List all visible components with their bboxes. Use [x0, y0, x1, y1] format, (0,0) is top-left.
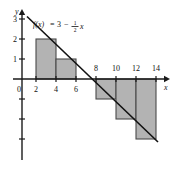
x-axis-arrowhead	[164, 76, 170, 82]
equation-minus: −	[64, 20, 69, 29]
x-tick-label-14: 14	[152, 64, 160, 73]
equation-fx: f(x)	[33, 20, 44, 29]
equation-three: 3	[57, 20, 61, 29]
function-equation-annotation: f(x) = 3 − 1 2 x	[33, 20, 84, 33]
y-tick-label-3: 3	[13, 15, 17, 24]
y-axis-arrowhead	[19, 9, 25, 15]
bar-10-12	[116, 79, 136, 119]
x-tick-label-12: 12	[132, 64, 140, 73]
x-tick-label-10: 10	[112, 64, 120, 73]
bar-4-6	[56, 59, 76, 79]
equation-fraction-denominator: 2	[74, 27, 77, 33]
equation-equals: =	[50, 20, 55, 29]
y-tick-label-2: 2	[13, 35, 17, 44]
x-tick-label-0: 0	[17, 85, 21, 94]
bar-group-negative	[96, 79, 156, 139]
chart-canvas: 0 2 4 6 8 10 12 14 3 2 1 y x f(x) = 3 − …	[0, 0, 175, 172]
y-axis-label: y	[14, 7, 19, 16]
y-tick-label-1: 1	[13, 55, 17, 64]
x-tick-label-8: 8	[94, 64, 98, 73]
x-tick-label-6: 6	[74, 85, 78, 94]
x-tick-label-4: 4	[54, 85, 58, 94]
equation-variable: x	[79, 22, 84, 31]
x-axis-label: x	[163, 83, 168, 92]
bar-2-4	[36, 39, 56, 79]
bar-8-10	[96, 79, 116, 99]
riemann-sum-figure: 0 2 4 6 8 10 12 14 3 2 1 y x f(x) = 3 − …	[0, 0, 175, 172]
equation-fraction-numerator: 1	[74, 20, 77, 26]
x-tick-label-2: 2	[34, 85, 38, 94]
